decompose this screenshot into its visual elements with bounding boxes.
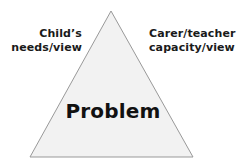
triangle-center-label: Problem	[0, 99, 226, 123]
diagram-canvas: Child’s needs/view Carer/teacher capacit…	[0, 0, 239, 166]
label-carer-capacity-line2: capacity/view	[149, 41, 239, 55]
label-child-needs-line2: needs/view	[0, 41, 82, 55]
label-carer-capacity-line1: Carer/teacher	[149, 27, 239, 41]
label-child-needs: Child’s needs/view	[0, 27, 82, 55]
label-carer-capacity: Carer/teacher capacity/view	[149, 27, 239, 55]
label-child-needs-line1: Child’s	[0, 27, 82, 41]
triangle-shape	[0, 0, 239, 166]
